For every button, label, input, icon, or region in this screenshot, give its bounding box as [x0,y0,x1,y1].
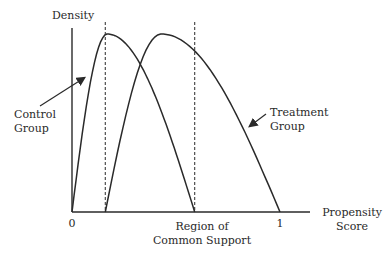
treatment-label-line1: Treatment [270,106,329,119]
x-tick-1: 1 [277,217,284,230]
x-axis-label-line1: Propensity [322,206,383,219]
y-axis-label: Density [52,9,95,22]
control-label-line1: Control [14,108,56,121]
region-label-line2: Common Support [153,234,252,247]
x-axis-label-line2: Score [336,220,368,233]
control-arrow-icon [40,78,84,106]
propensity-diagram: Density 0 1 Propensity Score Region of C… [0,0,390,256]
control-label-line2: Group [14,122,49,135]
x-tick-0: 0 [69,217,76,230]
region-label-line1: Region of [175,220,229,233]
control-curve [72,34,195,212]
treatment-arrow-icon [250,114,266,126]
treatment-label-line2: Group [270,120,305,133]
